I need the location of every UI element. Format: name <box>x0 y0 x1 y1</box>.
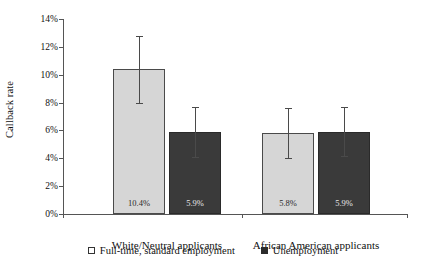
error-bar-cap-lower <box>136 103 143 104</box>
legend-item-label: Full-time, standard employment <box>100 245 235 256</box>
y-tick-mark <box>59 47 63 48</box>
error-bar-cap-upper <box>285 108 292 109</box>
y-tick-label: 10% <box>41 70 58 80</box>
bar-value-label: 5.9% <box>170 198 220 208</box>
y-tick-mark <box>59 158 63 159</box>
error-bar-cap-lower <box>341 156 348 157</box>
error-bar-cap-lower <box>192 157 199 158</box>
error-bar-line <box>288 108 289 158</box>
bar-value-label: 5.8% <box>263 198 313 208</box>
y-tick-mark <box>59 75 63 76</box>
chart-legend: Full-time, standard employmentUnemployme… <box>0 245 426 256</box>
callback-rate-bar-chart: Callback rate 0%2%4%6%8%10%12%14% 10.4%5… <box>0 0 426 270</box>
y-tick-label: 14% <box>41 14 58 24</box>
y-tick-label: 12% <box>41 42 58 52</box>
y-tick-label: 8% <box>45 98 58 108</box>
dark-square-icon <box>261 247 268 254</box>
light-square-icon <box>88 247 95 254</box>
y-tick-mark <box>59 19 63 20</box>
bar-value-label: 10.4% <box>114 198 164 208</box>
error-bar-cap-upper <box>341 107 348 108</box>
error-bar-cap-upper <box>136 36 143 37</box>
bar-value-label: 5.9% <box>319 198 369 208</box>
x-tick-mark <box>242 214 243 218</box>
y-tick-mark <box>59 103 63 104</box>
y-tick-label: 4% <box>45 153 58 163</box>
y-tick-label: 2% <box>45 181 58 191</box>
x-axis-line <box>63 214 408 215</box>
y-axis-title-label: Callback rate <box>4 81 15 138</box>
y-tick-mark <box>59 130 63 131</box>
y-tick-mark <box>59 186 63 187</box>
legend-item[interactable]: Full-time, standard employment <box>88 245 235 256</box>
y-tick-label: 0% <box>45 209 58 219</box>
x-tick-mark <box>407 214 408 218</box>
x-tick-mark <box>63 214 64 218</box>
error-bar-cap-upper <box>192 107 199 108</box>
legend-item-label: Unemployment <box>273 245 338 256</box>
error-bar-cap-lower <box>285 158 292 159</box>
error-bar-line <box>344 107 345 156</box>
y-tick-label: 6% <box>45 125 58 135</box>
error-bar-line <box>195 107 196 157</box>
plot-area: 0%2%4%6%8%10%12%14% 10.4%5.8%5.9%5.9% Wh… <box>63 19 408 215</box>
y-axis-title: Callback rate <box>0 0 18 218</box>
error-bar-line <box>139 36 140 103</box>
legend-item[interactable]: Unemployment <box>261 245 338 256</box>
y-axis-line <box>63 19 64 215</box>
